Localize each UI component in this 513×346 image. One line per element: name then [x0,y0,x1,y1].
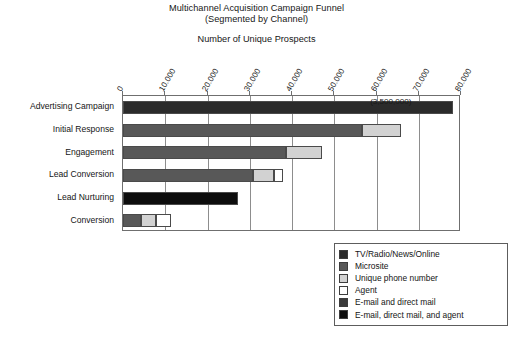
bar-value-annotation: (3,500,000) [370,97,411,106]
plot-area: (3,500,000) [122,95,460,231]
legend-swatch-icon [339,250,348,259]
bar-segment [274,169,283,182]
x-axis-tick-label: 60.000 [369,67,389,93]
bar-row [123,169,461,182]
x-axis-tick-label: 80.000 [453,67,473,93]
gridline [250,96,251,230]
x-axis-tick-label: 40.000 [284,67,304,93]
bar-segment [362,124,401,137]
y-axis-category-label: Lead Nurturing [57,192,114,202]
legend-item[interactable]: TV/Radio/News/Online [339,248,502,260]
y-axis-category-label: Conversion [71,215,114,225]
bar-segment [123,146,286,159]
legend-swatch-icon [339,274,348,283]
gridline [165,96,166,230]
legend-item[interactable]: Unique phone number [339,272,502,284]
legend-item-label: E-mail, direct mail, and agent [355,310,463,320]
bar-segment [141,214,156,227]
bar-row [123,124,461,137]
chart-container: Multichannel Acquisition Campaign Funnel… [0,0,513,346]
legend-swatch-icon [339,262,348,271]
legend-swatch-icon [339,298,348,307]
gridline [292,96,293,230]
bar-segment [123,169,253,182]
bar-segment [123,214,141,227]
legend-item-label: Microsite [355,261,389,271]
x-axis-tick-label: 10.000 [157,67,177,93]
y-axis-label-area: Advertising CampaignInitial ResponseEnga… [0,95,118,231]
chart-legend: TV/Radio/News/OnlineMicrositeUnique phon… [334,243,508,326]
bar-segment [253,169,274,182]
x-axis-tick-label: 70.000 [411,67,431,93]
legend-item-label: Unique phone number [355,273,438,283]
legend-swatch-icon [339,286,348,295]
legend-item-label: E-mail and direct mail [355,297,436,307]
gridline [208,96,209,230]
bar-segment [123,192,238,205]
x-axis-tick-label: 20.000 [200,67,220,93]
y-axis-category-label: Initial Response [53,124,114,134]
bar-segment [156,214,171,227]
gridline [419,96,420,230]
gridline [377,96,378,230]
x-axis-tick-label: 30.000 [242,67,262,93]
bar-row [123,214,461,227]
legend-item[interactable]: E-mail and direct mail [339,296,502,308]
legend-item[interactable]: E-mail, direct mail, and agent [339,308,502,320]
legend-item-label: Agent [355,285,377,295]
gridline [334,96,335,230]
x-axis-tick-label: 0 [115,85,125,93]
bar-row [123,146,461,159]
y-axis-category-label: Advertising Campaign [30,101,114,111]
y-axis-category-label: Engagement [65,147,114,157]
legend-item[interactable]: Agent [339,284,502,296]
footer-caption [6,336,336,344]
bar-row [123,192,461,205]
legend-swatch-icon [339,310,348,319]
y-axis-category-label: Lead Conversion [49,169,114,179]
x-axis-tick-label: 50.000 [326,67,346,93]
legend-item[interactable]: Microsite [339,260,502,272]
x-axis-tick-area: 010.00020.00030.00040.00050.00060.00070.… [0,0,513,95]
legend-item-label: TV/Radio/News/Online [355,249,440,259]
bar-segment [286,146,322,159]
bar-segment [123,124,362,137]
